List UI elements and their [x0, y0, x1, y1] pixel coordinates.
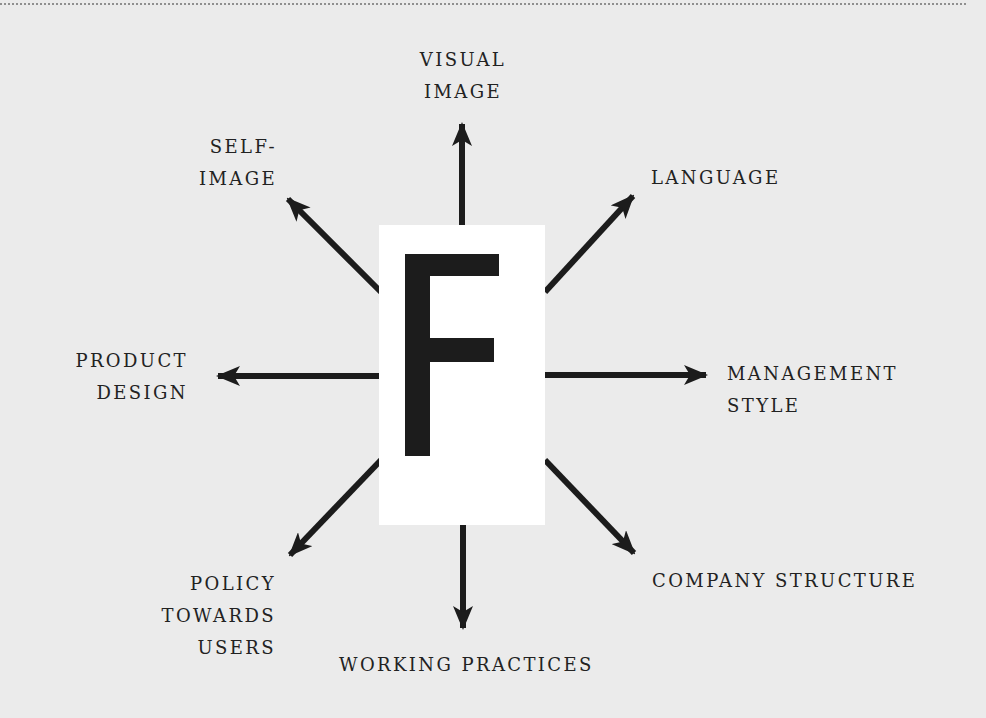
arrow-down-right-icon [545, 460, 634, 553]
arrow-down-left-icon [290, 460, 381, 555]
arrow-up-right-icon [545, 196, 633, 292]
arrow-up-left-icon [288, 199, 381, 292]
label-policy-towards-users: POLICY TOWARDS USERS [130, 568, 276, 664]
label-management-style: MANAGEMENT STYLE [727, 358, 947, 422]
label-product-design: PRODUCT DESIGN [50, 345, 188, 409]
label-visual-image: VISUAL IMAGE [410, 44, 516, 108]
letter-f-glyph [379, 225, 545, 525]
label-working-practices: WORKING PRACTICES [339, 649, 629, 681]
label-language: LANGUAGE [651, 162, 811, 194]
label-self-image: SELF- IMAGE [180, 131, 277, 195]
center-letter: F [379, 225, 545, 525]
center-box: F [379, 225, 545, 525]
label-company-structure: COMPANY STRUCTURE [652, 565, 952, 597]
